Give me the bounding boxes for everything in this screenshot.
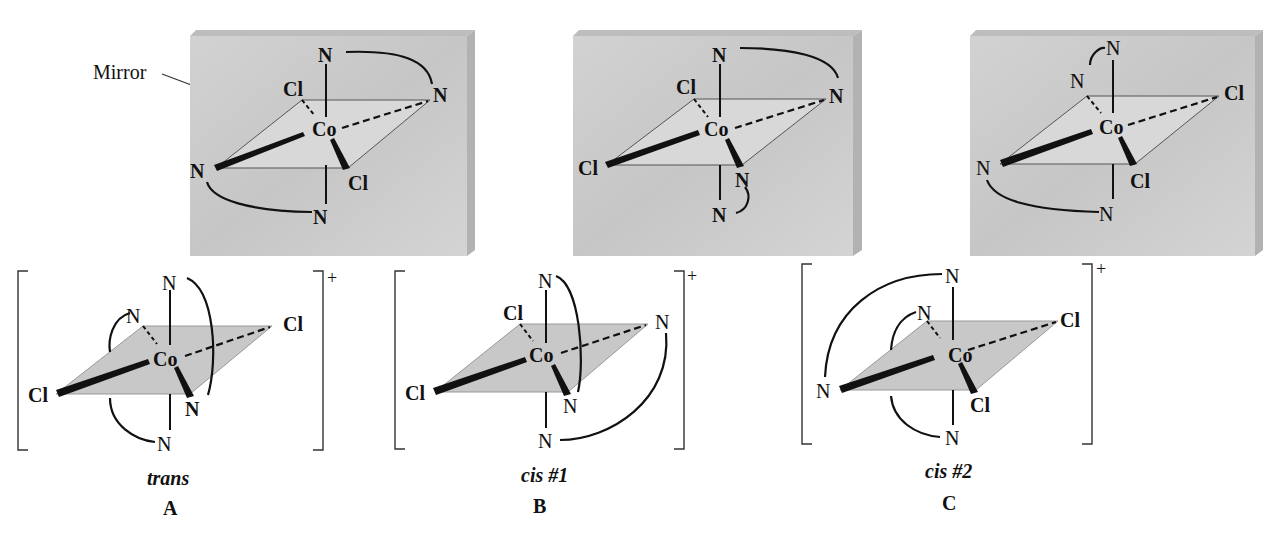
svg-text:N: N: [185, 398, 200, 420]
svg-text:N: N: [945, 265, 959, 287]
isomer-a-name: trans: [147, 467, 189, 489]
isomer-c-cis-2: + N N Cl Co N Cl N cis #2 C: [802, 259, 1106, 514]
svg-text:+: +: [687, 266, 697, 286]
svg-text:Cl: Cl: [283, 313, 303, 335]
svg-text:Cl: Cl: [503, 302, 523, 324]
svg-text:N: N: [318, 44, 333, 66]
svg-text:Cl: Cl: [578, 157, 598, 179]
svg-text:+: +: [1096, 259, 1106, 279]
svg-text:Cl: Cl: [676, 76, 696, 98]
svg-text:N: N: [829, 85, 844, 107]
svg-text:Cl: Cl: [283, 78, 303, 100]
svg-text:N: N: [1106, 37, 1120, 59]
svg-text:Co: Co: [529, 344, 553, 366]
svg-text:N: N: [563, 395, 577, 417]
svg-text:Cl: Cl: [1060, 309, 1080, 331]
svg-text:N: N: [538, 430, 552, 452]
svg-text:+: +: [327, 268, 337, 288]
svg-text:N: N: [190, 160, 205, 182]
svg-text:Co: Co: [153, 348, 177, 370]
svg-text:Co: Co: [312, 118, 336, 140]
mirror-panel-1: N Cl N Co N Cl N: [190, 30, 475, 256]
svg-text:Cl: Cl: [1130, 170, 1150, 192]
svg-text:N: N: [126, 305, 140, 327]
isomer-figure: Mirror N Cl N Co N Cl N: [0, 0, 1275, 535]
svg-text:N: N: [313, 206, 328, 228]
svg-text:Cl: Cl: [970, 394, 990, 416]
mirror-panel-2: N Cl N Co Cl N N: [573, 30, 862, 256]
svg-text:N: N: [1099, 203, 1113, 225]
svg-text:Cl: Cl: [348, 172, 368, 194]
svg-text:Cl: Cl: [28, 384, 48, 406]
svg-text:N: N: [945, 427, 959, 449]
svg-text:N: N: [712, 44, 727, 66]
svg-text:N: N: [1070, 70, 1084, 92]
svg-text:Co: Co: [704, 118, 728, 140]
isomer-b-cis-1: + N Cl N Co Cl N N cis #1 B: [395, 266, 697, 517]
isomer-a-letter: A: [163, 497, 178, 519]
svg-text:Co: Co: [1099, 116, 1123, 138]
svg-text:N: N: [162, 272, 176, 294]
isomer-c-letter: C: [942, 492, 956, 514]
svg-text:N: N: [816, 380, 830, 402]
isomer-b-letter: B: [533, 495, 546, 517]
svg-text:N: N: [976, 157, 990, 179]
svg-text:N: N: [655, 311, 669, 333]
svg-text:Cl: Cl: [1224, 82, 1244, 104]
svg-text:Co: Co: [948, 344, 972, 366]
svg-text:N: N: [735, 169, 750, 191]
svg-text:N: N: [712, 204, 727, 226]
svg-text:Cl: Cl: [405, 382, 425, 404]
svg-text:N: N: [433, 84, 448, 106]
isomer-b-name: cis #1: [521, 464, 568, 486]
isomer-a-trans: + N N Cl Co Cl N N trans A: [18, 268, 337, 519]
svg-text:N: N: [917, 302, 931, 324]
svg-text:N: N: [157, 433, 171, 455]
mirror-label: Mirror: [93, 61, 147, 83]
isomer-c-name: cis #2: [925, 460, 972, 482]
svg-text:N: N: [538, 270, 552, 292]
mirror-panel-3: N N Cl Co N Cl N: [970, 30, 1263, 256]
